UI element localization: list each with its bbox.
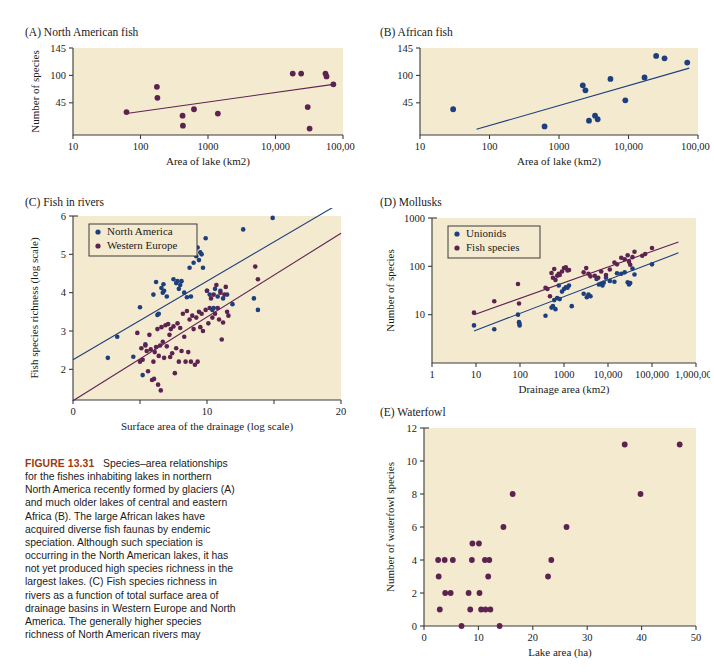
panel-c-data-point — [162, 288, 167, 293]
panel-e-data-point — [497, 623, 503, 629]
panel-c-data-point — [162, 356, 167, 361]
panel-e-xtick-label: 20 — [528, 632, 539, 643]
panel-c-data-point — [144, 349, 149, 354]
panel-d-data-point — [622, 270, 627, 275]
panel-a-plot: 4510014510100100010,000100,000Area of la… — [25, 38, 355, 183]
panel-b-xlabel: Area of lake (km2) — [517, 155, 601, 168]
panel-c-data-point — [146, 369, 151, 374]
panel-c-ytick-label: 6 — [61, 211, 66, 222]
panel-c-data-point — [185, 309, 190, 314]
panel-a-ytick-label: 100 — [50, 70, 66, 81]
panel-b-data-point — [542, 124, 548, 130]
panel-d-data-point — [472, 323, 477, 328]
panel-c-data-point — [170, 351, 175, 356]
panel-d-xtick-label: 100,000 — [635, 369, 669, 380]
panel-d-data-point — [615, 262, 620, 267]
panel-c-data-point — [217, 317, 222, 322]
panel-c-data-point — [191, 260, 196, 265]
panel-a-data-point — [124, 109, 130, 115]
panel-c-data-point — [182, 334, 187, 339]
panel-c-data-point — [171, 324, 176, 329]
panel-a-data-point — [191, 106, 197, 112]
panel-d-data-point — [549, 271, 554, 276]
panel-a-data-point — [305, 104, 311, 110]
panel-e-xtick-label: 30 — [582, 632, 593, 643]
panel-e-data-point — [476, 541, 482, 547]
panel-e-ytick-label: 10 — [407, 456, 418, 467]
panel-c-data-point — [191, 327, 196, 332]
panel-c-data-point — [214, 283, 219, 288]
panel-c-data-point — [256, 308, 261, 313]
panel-d-data-point — [650, 246, 655, 251]
panel-c-data-point — [174, 346, 179, 351]
panel-c-data-point — [223, 285, 228, 290]
panel-c-data-point — [195, 359, 200, 364]
panel-e-xtick-label: 0 — [421, 632, 426, 643]
panel-c-data-point — [160, 339, 165, 344]
panel-d-data-point — [517, 301, 522, 306]
panel-e-data-point — [486, 557, 492, 563]
panel-d-data-point — [628, 281, 633, 286]
panel-c-data-point — [226, 313, 231, 318]
panel-d-plot: 101001000110100100010,000100,0001,000,00… — [380, 208, 710, 411]
panel-e-plot: 02468101201020304050Lake area (ha)Number… — [380, 418, 710, 672]
panel-b-xtick-label: 10,000 — [614, 141, 643, 152]
panel-c-data-point — [165, 344, 170, 349]
panel-c-data-point — [135, 331, 140, 336]
panel-e-ytick-label: 2 — [412, 588, 417, 599]
panel-b-data-point — [622, 97, 628, 103]
panel-c-data-point — [213, 311, 218, 316]
panel-a-data-point — [215, 111, 221, 117]
panel-a-plot-area — [73, 48, 343, 135]
panel-a-data-point — [298, 71, 304, 77]
panel-b-xtick-label: 100 — [482, 141, 498, 152]
panel-a-data-point — [154, 84, 160, 90]
panel-e-data-point — [469, 557, 475, 563]
panel-e-data-point — [470, 541, 476, 547]
panel-e-data-point — [487, 607, 493, 613]
panel-c-data-point — [199, 252, 204, 257]
panel-c-ytick-label: 3 — [61, 326, 66, 337]
panel-d-data-point — [492, 327, 497, 332]
panel-e-data-point — [437, 607, 443, 613]
panel-c-ytick-label: 5 — [61, 249, 66, 260]
panel-a-xtick-label: 10 — [68, 141, 79, 152]
panel-b-data-point — [450, 106, 456, 112]
panel-d-data-point — [612, 279, 617, 284]
panel-e-data-point — [466, 590, 472, 596]
panel-d-data-point — [567, 283, 572, 288]
panel-d-xtick-label: 1 — [429, 369, 434, 380]
figure-label: FIGURE 13.31 — [25, 458, 94, 469]
panel-d-data-point — [553, 307, 558, 312]
figure-caption: FIGURE 13.31 Species–area relationships … — [25, 457, 239, 641]
panel-d-data-point — [557, 297, 562, 302]
panel-e-data-point — [442, 590, 448, 596]
panel-c-data-point — [175, 279, 180, 284]
panel-c-data-point — [152, 350, 157, 355]
panel-c-xlabel: Surface area of the drainage (log scale) — [121, 420, 294, 433]
panel-c-data-point — [151, 292, 156, 297]
panel-c-data-point — [201, 329, 206, 334]
panel-d-data-point — [608, 267, 613, 272]
panel-e-data-point — [545, 574, 551, 580]
panel-c-data-point — [166, 322, 171, 327]
panel-c-legend-marker — [95, 243, 100, 248]
panel-b-data-point — [580, 82, 586, 88]
panel-e-data-point — [459, 623, 465, 629]
panel-c-plot: 2345601020Surface area of the drainage (… — [25, 208, 355, 446]
panel-c-data-point — [203, 308, 208, 313]
panel-d-data-point — [581, 292, 586, 297]
panel-d-data-point — [545, 287, 550, 292]
panel-c-data-point — [222, 292, 227, 297]
panel-d-xlabel: Drainage area (km2) — [518, 383, 609, 396]
panel-c-data-point — [179, 279, 184, 284]
panel-d-data-point — [630, 255, 635, 260]
panel-d-data-point — [604, 273, 609, 278]
panel-c-data-point — [219, 337, 224, 342]
panel-c-data-point — [190, 313, 195, 318]
panel-d-data-point — [632, 272, 637, 277]
panel-a-data-point — [155, 95, 161, 101]
panel-c-data-point — [189, 359, 194, 364]
panel-e-xlabel: Lake area (ha) — [528, 646, 592, 659]
panel-b: (B) African fish 4510014510100100010,000… — [380, 26, 710, 186]
